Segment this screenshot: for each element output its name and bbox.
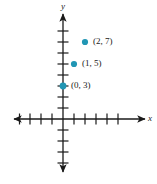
- y-axis-label: y: [61, 2, 65, 11]
- data-point-marker: [82, 39, 88, 45]
- data-point-label: (0, 3): [71, 81, 91, 90]
- x-axis-label: x: [148, 114, 152, 123]
- coordinate-plane-figure: y x (2, 7) (1, 5) (0, 3): [0, 0, 157, 184]
- data-point-label: (2, 7): [93, 37, 113, 46]
- coordinate-axes-graphic: [0, 0, 157, 184]
- data-point-marker: [71, 61, 77, 67]
- data-point-label: (1, 5): [82, 59, 102, 68]
- data-point-marker: [60, 83, 67, 90]
